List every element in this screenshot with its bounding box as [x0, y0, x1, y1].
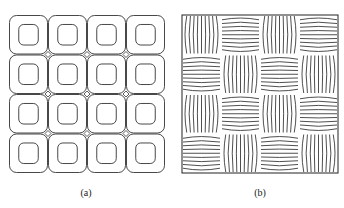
inner-cell: [58, 103, 78, 124]
inner-cell: [136, 64, 156, 85]
vertical-hatch-cell: [302, 135, 335, 173]
outer-cell: [88, 95, 126, 134]
outer-cell: [49, 95, 87, 134]
outer-cell: [49, 134, 87, 173]
inner-cell: [58, 143, 78, 164]
inner-cell: [136, 24, 156, 45]
panel-b: [181, 14, 339, 174]
horizontal-hatch-cell: [222, 97, 259, 130]
horizontal-hatch-cell: [261, 137, 298, 170]
outer-cell: [127, 95, 165, 134]
rounded-square-grid: [8, 14, 166, 174]
outer-cell: [127, 134, 165, 173]
vertical-hatch-cell: [263, 95, 296, 133]
outer-cell: [49, 16, 87, 55]
hatched-checkerboard-grid: [181, 14, 339, 174]
vertical-hatch-cell: [302, 56, 335, 94]
outer-cell: [10, 134, 48, 173]
inner-cell: [58, 64, 78, 85]
inner-cell: [19, 143, 39, 164]
inner-cell: [97, 143, 117, 164]
vertical-hatch-cell: [224, 56, 257, 94]
inner-cell: [19, 24, 39, 45]
inner-cell: [97, 64, 117, 85]
horizontal-hatch-cell: [300, 97, 337, 130]
inner-cell: [97, 24, 117, 45]
horizontal-hatch-cell: [222, 18, 259, 51]
outer-cell: [10, 95, 48, 134]
outer-cell: [127, 16, 165, 55]
outer-cell: [10, 55, 48, 94]
vertical-hatch-cell: [185, 95, 218, 133]
horizontal-hatch-cell: [300, 18, 337, 51]
outer-cell: [127, 55, 165, 94]
caption-a: (a): [66, 187, 106, 198]
outer-cell: [88, 134, 126, 173]
caption-b: (b): [240, 187, 280, 198]
horizontal-hatch-cell: [183, 58, 220, 91]
horizontal-hatch-cell: [261, 58, 298, 91]
horizontal-hatch-cell: [183, 137, 220, 170]
inner-cell: [136, 103, 156, 124]
outer-cell: [88, 55, 126, 94]
inner-cell: [136, 143, 156, 164]
outer-cell: [49, 55, 87, 94]
panel-a: [8, 14, 166, 174]
inner-cell: [19, 64, 39, 85]
vertical-hatch-cell: [185, 16, 218, 54]
vertical-hatch-cell: [263, 16, 296, 54]
vertical-hatch-cell: [224, 135, 257, 173]
inner-cell: [19, 103, 39, 124]
outer-cell: [88, 16, 126, 55]
inner-cell: [58, 24, 78, 45]
inner-cell: [97, 103, 117, 124]
outer-cell: [10, 16, 48, 55]
